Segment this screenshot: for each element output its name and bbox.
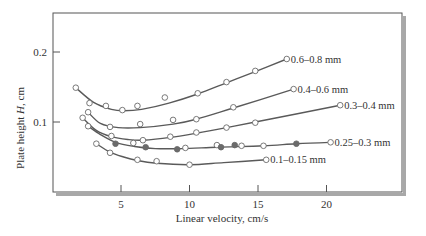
data-point-hollow	[239, 143, 245, 149]
data-point-hollow	[162, 95, 168, 101]
x-axis-ticks: 5101520	[118, 185, 332, 210]
data-point-hollow	[328, 140, 334, 146]
data-point-hollow	[194, 130, 200, 136]
data-point-hollow	[168, 134, 174, 140]
series-curves	[76, 59, 340, 165]
data-point-hollow	[183, 145, 189, 151]
y-tick-label: 0.1	[33, 116, 47, 128]
series-label: 0.4–0.6 mm	[298, 84, 348, 95]
data-point-hollow	[194, 116, 200, 122]
data-point-filled	[113, 141, 119, 147]
data-point-hollow	[85, 109, 91, 115]
y-axis-ticks: 0.10.2	[33, 46, 60, 128]
chart-canvas: 0.10.2 5101520 0.6–0.8 mm0.4–0.6 mm0.3–0…	[0, 0, 426, 236]
data-point-hollow	[135, 103, 141, 109]
data-point-hollow	[195, 91, 201, 97]
x-tick-label: 10	[184, 198, 196, 210]
series-label: 0.6–0.8 mm	[291, 54, 341, 65]
series-label: 0.25–0.3 mm	[335, 137, 391, 148]
data-point-hollow	[187, 162, 193, 168]
series-line	[88, 89, 294, 128]
data-point-hollow	[231, 105, 237, 111]
data-point-hollow	[224, 79, 230, 85]
data-point-hollow	[107, 150, 113, 156]
data-point-hollow	[73, 85, 79, 91]
data-point-filled	[232, 142, 238, 148]
series-markers	[73, 56, 343, 167]
data-point-hollow	[120, 107, 126, 113]
data-point-hollow	[103, 103, 109, 109]
data-point-hollow	[252, 68, 258, 74]
data-point-hollow	[337, 102, 343, 108]
x-tick-label: 15	[253, 198, 265, 210]
data-point-hollow	[85, 123, 91, 129]
x-axis-title: Linear velocity, cm/s	[176, 212, 268, 224]
data-point-filled	[294, 141, 300, 147]
data-point-hollow	[291, 86, 297, 92]
series-label: 0.3–0.4 mm	[344, 100, 394, 111]
data-point-hollow	[170, 117, 176, 123]
x-tick-label: 20	[321, 198, 333, 210]
data-point-hollow	[137, 121, 143, 127]
data-point-hollow	[224, 125, 230, 131]
data-point-filled	[143, 144, 149, 150]
series-labels: 0.6–0.8 mm0.4–0.6 mm0.3–0.4 mm0.25–0.3 m…	[270, 54, 394, 166]
data-point-hollow	[87, 100, 93, 106]
data-point-hollow	[154, 158, 160, 164]
data-point-hollow	[263, 157, 269, 163]
data-point-hollow	[94, 141, 100, 147]
data-point-hollow	[261, 143, 267, 149]
y-tick-label: 0.2	[33, 46, 47, 58]
data-point-hollow	[131, 140, 137, 146]
x-tick-label: 5	[118, 198, 124, 210]
data-point-filled	[218, 144, 224, 150]
data-point-hollow	[107, 124, 113, 130]
data-point-hollow	[109, 133, 115, 139]
data-point-hollow	[135, 157, 141, 163]
y-axis-title: Plate height H, cm	[14, 87, 26, 169]
data-point-hollow	[140, 137, 146, 143]
data-point-hollow	[284, 56, 290, 62]
data-point-hollow	[252, 120, 258, 126]
series-label: 0.1–0.15 mm	[270, 154, 326, 165]
data-point-hollow	[80, 115, 86, 121]
data-point-filled	[174, 147, 180, 153]
